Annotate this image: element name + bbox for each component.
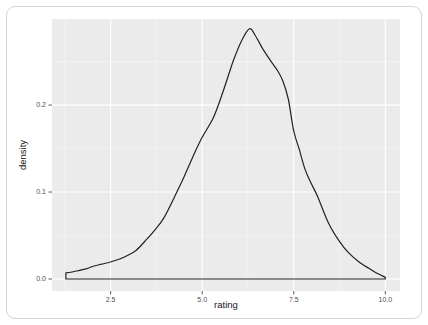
svg-text:10.0: 10.0 xyxy=(379,296,393,303)
y-tick-labels: 0.00.10.2 xyxy=(36,101,46,282)
plot-panel xyxy=(52,19,400,291)
y-axis-title: density xyxy=(17,140,28,170)
svg-text:2.5: 2.5 xyxy=(106,296,116,303)
svg-text:7.5: 7.5 xyxy=(289,296,299,303)
svg-text:0.0: 0.0 xyxy=(36,275,46,282)
density-chart: 2.55.07.510.00.00.10.2 xyxy=(0,0,428,325)
svg-text:0.2: 0.2 xyxy=(36,101,46,108)
svg-text:5.0: 5.0 xyxy=(197,296,207,303)
page-background: 2.55.07.510.00.00.10.2 rating density xyxy=(0,0,428,325)
svg-text:0.1: 0.1 xyxy=(36,188,46,195)
x-axis-title: rating xyxy=(214,299,238,310)
x-tick-labels: 2.55.07.510.0 xyxy=(106,296,393,303)
